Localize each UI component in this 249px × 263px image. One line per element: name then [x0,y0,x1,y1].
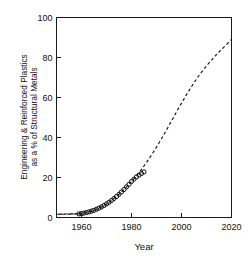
x-tick-label: 1960 [71,222,91,232]
y-tick-label: 20 [42,173,52,183]
chart-container: 020406080100 1960198020002020 Year Engin… [0,0,249,263]
x-tick-label: 1980 [121,222,141,232]
x-tick-label: 2020 [221,222,241,232]
y-tick-label: 60 [42,93,52,103]
y-tick-label: 100 [37,13,52,23]
y-axis-title-line2: as a % of Structural Metals [29,67,39,166]
y-tick-label: 40 [42,133,52,143]
y-tick-label: 0 [47,213,52,223]
x-tick-label: 2000 [171,222,191,232]
y-tick-label: 80 [42,53,52,63]
y-axis-title: Engineering & Reinforced Plastics as a %… [19,54,39,179]
chart-svg: 020406080100 1960198020002020 Year Engin… [0,0,249,263]
x-axis-title: Year [134,241,153,252]
y-axis-title-line1: Engineering & Reinforced Plastics [19,54,29,179]
